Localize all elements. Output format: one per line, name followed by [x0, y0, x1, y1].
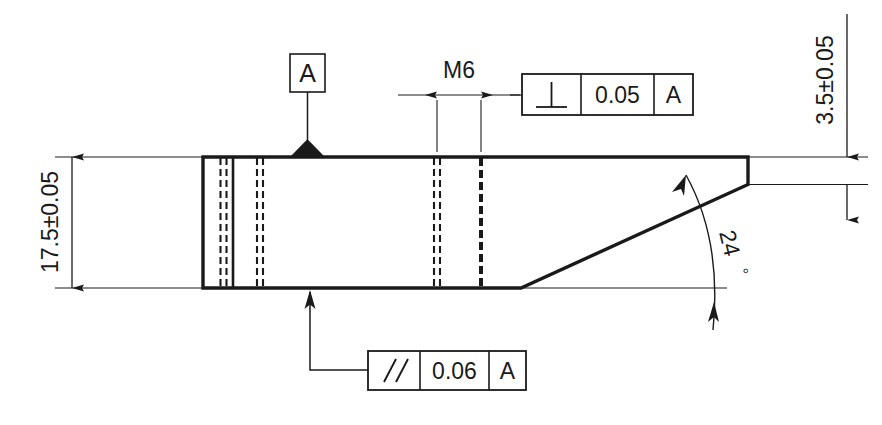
- part-outline: [203, 157, 748, 288]
- dimension-height-right[interactable]: 3.5±0.05: [748, 14, 868, 220]
- fcf-para-leader: [310, 292, 368, 370]
- datum-feature-a[interactable]: A: [290, 54, 325, 157]
- angle-arc: [686, 175, 715, 330]
- datum-a-label: A: [299, 59, 316, 87]
- dimension-height-left[interactable]: 17.5±0.05: [37, 157, 203, 288]
- dimension-label-m6: M6: [443, 57, 475, 83]
- dimension-label-17-5: 17.5±0.05: [37, 171, 63, 273]
- fcf-perp-datum: A: [666, 82, 682, 108]
- angle-arrow-upper-icon: [672, 175, 686, 196]
- dimension-thread-m6[interactable]: M6: [398, 57, 520, 152]
- fcf-para-datum: A: [500, 358, 516, 384]
- dimension-label-angle-unit: °: [733, 267, 751, 277]
- part-body-profile: [203, 157, 748, 288]
- fcf-perp-tolerance: 0.05: [595, 82, 640, 108]
- technical-drawing-canvas: A 17.5±0.05 3.5±0.05 M6 0.05: [0, 0, 882, 425]
- drawing-svg: A 17.5±0.05 3.5±0.05 M6 0.05: [0, 0, 882, 425]
- dimension-label-3-5: 3.5±0.05: [812, 35, 838, 124]
- feature-control-frame-perpendicularity[interactable]: 0.05 A: [510, 74, 693, 115]
- datum-triangle-icon: [291, 140, 324, 157]
- dimension-label-angle: 24: [714, 228, 745, 259]
- hidden-lines: [221, 158, 482, 287]
- fcf-para-tolerance: 0.06: [432, 358, 477, 384]
- feature-control-frame-parallelism[interactable]: 0.06 A: [305, 290, 527, 390]
